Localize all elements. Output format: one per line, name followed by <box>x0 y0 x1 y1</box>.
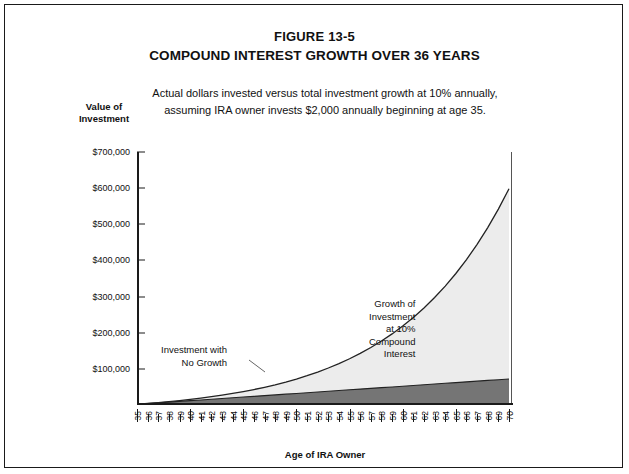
x-tick-label: 46 <box>250 411 260 420</box>
x-tick-label: 45 <box>239 411 249 420</box>
y-tick-label: $300,000 <box>92 292 137 302</box>
annotation-no-growth-line-1: Investment with <box>161 344 227 357</box>
x-tick-label: 69 <box>494 411 504 420</box>
figure-title: COMPOUND INTEREST GROWTH OVER 36 YEARS <box>5 48 624 63</box>
annotation-compound-growth: Growth of Investment at 10% Compound Int… <box>369 298 415 361</box>
y-axis-title: Value of Investment <box>63 101 145 125</box>
figure-number: FIGURE 13-5 <box>5 29 624 44</box>
x-tick-label: 52 <box>314 411 324 420</box>
x-tick-label: 38 <box>165 411 175 420</box>
x-axis-tick-labels: 3536373839404142434445464748495051525354… <box>137 411 513 451</box>
x-axis-title: Age of IRA Owner <box>137 449 513 460</box>
x-tick-label: 58 <box>377 411 387 420</box>
x-tick-label: 44 <box>229 411 239 420</box>
lead-line-2: assuming IRA owner invests $2,000 annual… <box>135 102 515 119</box>
x-tick-label: 50 <box>292 411 302 420</box>
y-tick-mark <box>137 296 145 297</box>
annotation-no-growth: Investment with No Growth <box>161 344 227 369</box>
area-series-svg <box>137 148 513 409</box>
x-tick-label: 68 <box>484 411 494 420</box>
y-tick-mark <box>137 188 145 189</box>
x-tick-label: 62 <box>420 411 430 420</box>
x-tick-label: 47 <box>261 411 271 420</box>
x-tick-label: 56 <box>356 411 366 420</box>
x-tick-label: 59 <box>388 411 398 420</box>
x-tick-label: 55 <box>346 411 356 420</box>
x-tick-label: 37 <box>154 411 164 420</box>
x-tick-label: 39 <box>176 411 186 420</box>
x-tick-label: 67 <box>473 411 483 420</box>
x-tick-label: 51 <box>303 411 313 420</box>
y-tick-label: $400,000 <box>92 255 137 265</box>
annotation-no-growth-line-2: No Growth <box>161 357 227 370</box>
x-tick-label: 48 <box>271 411 281 420</box>
figure-frame: FIGURE 13-5 COMPOUND INTEREST GROWTH OVE… <box>4 4 623 468</box>
x-tick-label: 66 <box>462 411 472 420</box>
y-tick-label: $600,000 <box>92 183 137 193</box>
plot-right-border <box>511 152 512 405</box>
y-tick-mark <box>137 260 145 261</box>
lead-line-1: Actual dollars invested versus total inv… <box>135 85 515 102</box>
x-tick-label: 57 <box>367 411 377 420</box>
y-tick-mark <box>137 332 145 333</box>
annotation-growth-line-1: Growth of <box>369 298 415 311</box>
annotation-growth-line-3: at 10% <box>369 323 415 336</box>
annotation-growth-line-2: Investment <box>369 311 415 324</box>
y-tick-mark <box>137 224 145 225</box>
x-tick-label: 40 <box>186 411 196 420</box>
x-tick-label: 49 <box>282 411 292 420</box>
x-tick-label: 70 <box>505 411 515 420</box>
y-axis-line <box>137 152 139 405</box>
x-tick-label: 53 <box>324 411 334 420</box>
growth-area <box>137 189 509 405</box>
y-tick-label: $100,000 <box>92 364 137 374</box>
figure-lead-text: Actual dollars invested versus total inv… <box>135 85 515 119</box>
y-tick-label: $700,000 <box>92 147 137 157</box>
x-tick-label: 63 <box>431 411 441 420</box>
x-tick-label: 65 <box>452 411 462 420</box>
y-tick-mark <box>137 368 145 369</box>
x-tick-label: 35 <box>133 411 143 420</box>
y-tick-label: $500,000 <box>92 219 137 229</box>
annotation-growth-line-4: Compound <box>369 336 415 349</box>
y-tick-label: $200,000 <box>92 328 137 338</box>
x-tick-label: 61 <box>409 411 419 420</box>
x-tick-label: 41 <box>197 411 207 420</box>
x-tick-label: 64 <box>441 411 451 420</box>
y-axis-title-line-1: Value of <box>63 101 145 113</box>
annotation-growth-line-5: Interest <box>369 348 415 361</box>
x-tick-label: 60 <box>399 411 409 420</box>
y-axis-title-line-2: Investment <box>63 113 145 125</box>
y-tick-mark <box>137 152 145 153</box>
chart-plot-area: $100,000$200,000$300,000$400,000$500,000… <box>137 148 513 409</box>
x-tick-label: 36 <box>144 411 154 420</box>
x-tick-label: 54 <box>335 411 345 420</box>
x-tick-label: 43 <box>218 411 228 420</box>
x-axis-line <box>137 403 513 405</box>
x-tick-label: 42 <box>207 411 217 420</box>
